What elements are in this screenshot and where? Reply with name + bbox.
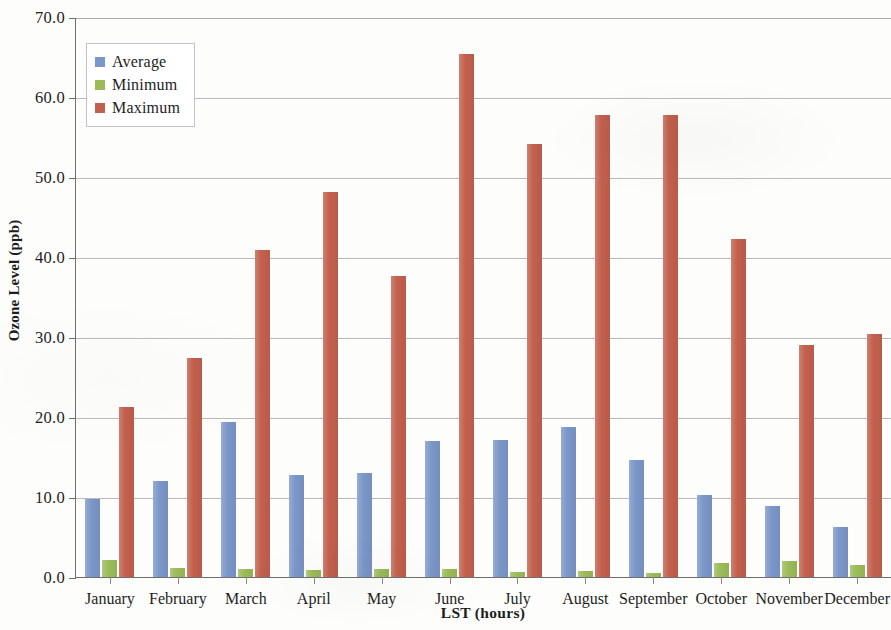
y-axis-tick-label: 30.0	[35, 328, 65, 348]
bar-average	[153, 481, 168, 577]
bar-group: March	[212, 18, 280, 577]
bar-maximum	[323, 192, 338, 577]
bar-maximum	[731, 239, 746, 577]
y-axis-tick	[69, 498, 76, 499]
bar-minimum	[306, 570, 321, 577]
bar-maximum	[187, 358, 202, 577]
x-axis-tick	[382, 577, 383, 584]
y-axis-tick-label: 60.0	[35, 88, 65, 108]
y-axis-tick	[69, 18, 76, 19]
y-axis-tick-label: 70.0	[35, 8, 65, 28]
bar-maximum	[867, 334, 882, 577]
legend-swatch-icon	[95, 80, 105, 90]
chart-figure: Ozone Level (ppb) 70.060.050.040.030.020…	[0, 0, 891, 630]
x-axis-tick	[517, 577, 518, 584]
x-axis-tick	[246, 577, 247, 584]
bar-maximum	[459, 54, 474, 577]
bar-average	[221, 422, 236, 577]
y-axis-title: Ozone Level (ppb)	[2, 0, 28, 560]
y-axis-tick	[69, 178, 76, 179]
bar-maximum	[391, 276, 406, 577]
y-axis-tick-label: 20.0	[35, 408, 65, 428]
x-axis-tick	[653, 577, 654, 584]
legend-item-minimum: Minimum	[95, 73, 180, 96]
x-axis-tick	[110, 577, 111, 584]
bar-average	[85, 499, 100, 577]
legend-label: Maximum	[112, 99, 180, 117]
bar-group: November	[755, 18, 823, 577]
bar-group: April	[280, 18, 348, 577]
bar-group: September	[619, 18, 687, 577]
y-axis-tick-label: 50.0	[35, 168, 65, 188]
bar-average	[629, 460, 644, 577]
legend-swatch-icon	[95, 57, 105, 67]
bar-average	[493, 440, 508, 577]
y-axis-tick	[69, 338, 76, 339]
y-axis-tick	[69, 258, 76, 259]
chart-legend: AverageMinimumMaximum	[86, 43, 195, 127]
y-axis-tick-label: 40.0	[35, 248, 65, 268]
bar-maximum	[255, 250, 270, 577]
bar-minimum	[782, 561, 797, 577]
legend-label: Minimum	[112, 76, 177, 94]
bar-minimum	[714, 563, 729, 577]
bar-minimum	[102, 560, 117, 577]
bar-group: October	[687, 18, 755, 577]
bar-average	[833, 527, 848, 577]
bar-average	[289, 475, 304, 577]
bar-average	[357, 473, 372, 577]
bar-maximum	[527, 144, 542, 577]
bar-maximum	[663, 115, 678, 577]
bar-group: August	[551, 18, 619, 577]
x-axis-tick	[857, 577, 858, 584]
plot-area: 70.060.050.040.030.020.010.00.0 JanuaryF…	[75, 18, 891, 578]
y-axis-tick	[69, 418, 76, 419]
x-axis-tick	[721, 577, 722, 584]
bar-average	[765, 506, 780, 577]
bar-average	[561, 427, 576, 577]
x-axis-tick	[450, 577, 451, 584]
bar-average	[425, 441, 440, 577]
bar-groups: JanuaryFebruaryMarchAprilMayJuneJulyAugu…	[76, 18, 891, 577]
bar-group: June	[416, 18, 484, 577]
bar-minimum	[850, 565, 865, 577]
bar-maximum	[799, 345, 814, 577]
x-axis-tick	[314, 577, 315, 584]
bar-group: July	[484, 18, 552, 577]
bar-maximum	[595, 115, 610, 577]
bar-minimum	[170, 568, 185, 577]
bar-average	[697, 495, 712, 577]
bar-minimum	[374, 569, 389, 577]
legend-item-maximum: Maximum	[95, 96, 180, 119]
bar-minimum	[442, 569, 457, 577]
bar-group: December	[823, 18, 891, 577]
y-axis-tick	[69, 98, 76, 99]
y-axis-tick-label: 0.0	[43, 568, 65, 588]
y-axis-title-text: Ozone Level (ppb)	[7, 219, 24, 341]
x-axis-tick	[585, 577, 586, 584]
x-axis-tick	[789, 577, 790, 584]
legend-label: Average	[112, 53, 166, 71]
legend-swatch-icon	[95, 103, 105, 113]
bar-maximum	[119, 407, 134, 577]
y-axis-tick-label: 10.0	[35, 488, 65, 508]
bar-minimum	[238, 569, 253, 577]
bar-group: May	[348, 18, 416, 577]
legend-item-average: Average	[95, 50, 180, 73]
y-axis-tick	[69, 578, 76, 579]
x-axis-title: LST (hours)	[75, 604, 891, 622]
x-axis-tick	[178, 577, 179, 584]
